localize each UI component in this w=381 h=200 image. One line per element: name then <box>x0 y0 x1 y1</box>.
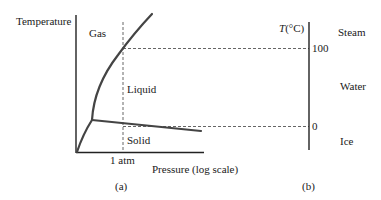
liquid-region-label: Liquid <box>127 84 156 95</box>
pressure-axis-label: Pressure (log scale) <box>152 164 238 175</box>
solid-region-label: Solid <box>127 135 150 146</box>
gas-region-label: Gas <box>89 28 106 39</box>
celsius-unit: (°C) <box>285 22 304 34</box>
freezing-point-tick-label: 0 <box>312 121 318 132</box>
one-atm-tick-label: 1 atm <box>110 155 135 166</box>
water-phase-label: Water <box>340 81 366 92</box>
ice-phase-label: Ice <box>340 136 353 147</box>
panel-b-caption: (b) <box>302 181 315 192</box>
sublimation-curve <box>77 120 92 152</box>
boiling-point-tick-label: 100 <box>312 43 329 54</box>
melting-curve <box>92 120 201 131</box>
steam-phase-label: Steam <box>338 27 366 38</box>
temperature-axis-label: Temperature <box>16 16 71 27</box>
panel-a-caption: (a) <box>115 181 127 192</box>
celsius-axis-label: T(°C) <box>279 23 304 34</box>
